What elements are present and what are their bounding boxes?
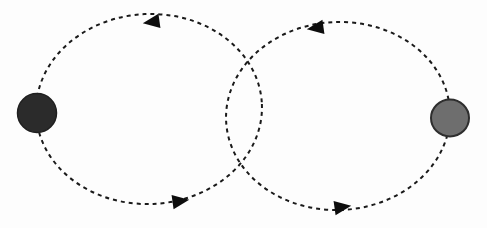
arrow-top-left	[142, 14, 161, 31]
left-dark-circle	[18, 94, 57, 133]
arrow-bottom-left	[172, 193, 191, 210]
orbital-loops-figure	[0, 0, 487, 228]
right-dashed-ellipse	[222, 17, 454, 215]
left-dashed-ellipse	[32, 9, 266, 209]
right-gray-circle	[431, 100, 469, 137]
arrow-top-right	[306, 20, 325, 37]
arrow-bottom-right	[334, 199, 353, 216]
diagram-canvas	[0, 0, 487, 228]
